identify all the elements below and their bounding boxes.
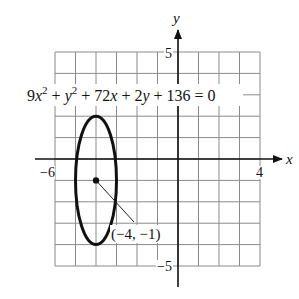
center-point-label: (−4, −1): [111, 226, 160, 243]
y-min-tick-label: −5: [157, 259, 172, 274]
equation-title: 9x2 + y2 + 72x + 2y + 136 = 0: [27, 84, 216, 105]
y-max-tick-label: 5: [165, 46, 172, 61]
x-min-tick-label: −6: [40, 165, 55, 180]
y-axis-label: y: [171, 10, 180, 26]
center-point: [93, 177, 99, 183]
chart-container: x y −6 4 5 −5 (−4, −1) 9x2 + y2 + 72x + …: [0, 0, 299, 299]
x-axis-label: x: [285, 151, 293, 167]
ellipse-graph: x y −6 4 5 −5 (−4, −1) 9x2 + y2 + 72x + …: [0, 0, 299, 299]
x-max-tick-label: 4: [256, 165, 263, 180]
